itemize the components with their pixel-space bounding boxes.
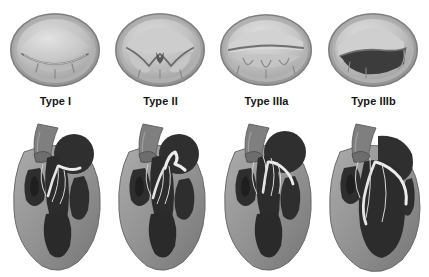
classification-column-type-1: Type I xyxy=(2,0,109,277)
valve-type-1 xyxy=(2,8,109,92)
classification-column-type-3b: Type IIIb xyxy=(320,0,427,277)
valve-type-2 xyxy=(107,8,214,92)
type-label-3a: Type IIIa xyxy=(213,95,320,108)
heart-type-2-illustration xyxy=(107,118,214,276)
valve-type-3b xyxy=(320,8,427,92)
classification-column-type-3a: Type IIIa xyxy=(213,0,320,277)
right-ventricle-chamber xyxy=(280,176,300,220)
heart-type-3b xyxy=(320,118,427,276)
type-label-3b: Type IIIb xyxy=(320,95,427,108)
valve-type-3b-illustration xyxy=(320,8,427,92)
type-label-1: Type I xyxy=(2,95,109,108)
heart-type-2 xyxy=(107,118,214,276)
valve-type-3a xyxy=(213,8,320,92)
heart-type-1 xyxy=(2,118,109,276)
heart-type-3b-illustration xyxy=(320,118,427,276)
classification-column-type-2: Type II xyxy=(107,0,214,277)
valve-type-1-illustration xyxy=(2,8,109,92)
heart-type-3a xyxy=(213,118,320,276)
right-ventricle-chamber xyxy=(69,176,89,220)
heart-type-3a-illustration xyxy=(213,118,320,276)
valve-type-2-illustration xyxy=(107,8,214,92)
valve-type-3a-illustration xyxy=(213,8,320,92)
mitral-valve-classification-figure: Type I xyxy=(0,0,429,277)
right-ventricle-chamber xyxy=(174,178,194,220)
type-label-2: Type II xyxy=(107,95,214,108)
heart-type-1-illustration xyxy=(2,118,109,276)
